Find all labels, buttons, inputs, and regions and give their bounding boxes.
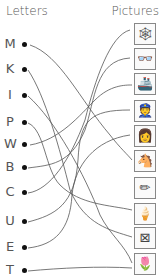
line-T bbox=[28, 267, 132, 271]
line-M bbox=[30, 45, 132, 160]
connecting-lines bbox=[0, 0, 162, 278]
line-I bbox=[28, 96, 132, 263]
line-P bbox=[28, 123, 132, 210]
